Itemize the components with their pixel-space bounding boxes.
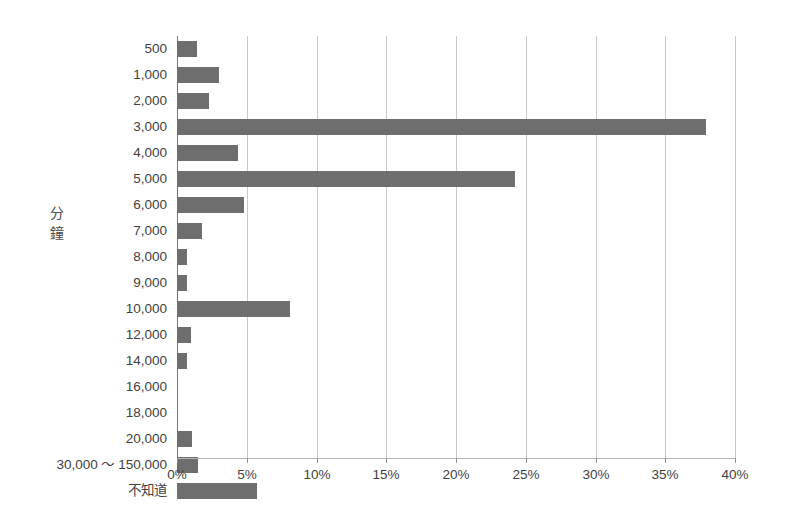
bar-row (177, 400, 735, 426)
category-label: 16,000 (126, 374, 167, 400)
bar-row (177, 374, 735, 400)
gridline (735, 36, 736, 458)
category-label: 10,000 (126, 296, 167, 322)
category-label: 500 (144, 36, 167, 62)
x-axis-tick (456, 458, 457, 463)
bar (177, 67, 219, 83)
category-label: 8,000 (133, 244, 167, 270)
bar-chart: 分 鐘 5001,0002,0003,0004,0005,0006,0007,0… (0, 0, 790, 517)
bar-row (177, 140, 735, 166)
bar-row (177, 192, 735, 218)
x-axis-tick-label: 35% (635, 467, 695, 482)
category-label: 18,000 (126, 400, 167, 426)
category-label: 12,000 (126, 322, 167, 348)
bar (177, 171, 515, 187)
x-axis-tick-label: 5% (217, 467, 277, 482)
x-axis-tick (596, 458, 597, 463)
bar-row (177, 296, 735, 322)
x-axis-tick-label: 25% (496, 467, 556, 482)
bar (177, 327, 191, 343)
bar (177, 223, 202, 239)
bar (177, 93, 209, 109)
x-axis-tick (247, 458, 248, 463)
bar (177, 431, 192, 447)
bar-row (177, 88, 735, 114)
bar-row (177, 218, 735, 244)
bar (177, 197, 244, 213)
plot-area (177, 36, 735, 458)
x-axis-tick-label: 30% (566, 467, 626, 482)
x-axis-tick-label: 15% (356, 467, 416, 482)
x-axis-tick (665, 458, 666, 463)
bar (177, 353, 187, 369)
x-axis: 0%5%10%15%20%25%30%35%40% (177, 458, 735, 498)
bar-row (177, 426, 735, 452)
x-axis-tick-label: 40% (705, 467, 765, 482)
bar (177, 41, 197, 57)
bar (177, 301, 290, 317)
x-axis-tick (735, 458, 736, 463)
category-label: 6,000 (133, 192, 167, 218)
bar-row (177, 36, 735, 62)
y-axis-category-labels: 5001,0002,0003,0004,0005,0006,0007,0008,… (20, 36, 172, 458)
category-label: 20,000 (126, 426, 167, 452)
category-label: 14,000 (126, 348, 167, 374)
bar-row (177, 244, 735, 270)
x-axis-tick (177, 458, 178, 463)
x-axis-tick-label: 10% (287, 467, 347, 482)
category-label: 5,000 (133, 166, 167, 192)
x-axis-tick (526, 458, 527, 463)
bar (177, 119, 706, 135)
category-label: 1,000 (133, 62, 167, 88)
bar-row (177, 348, 735, 374)
x-axis-tick-label: 0% (147, 467, 207, 482)
category-label: 9,000 (133, 270, 167, 296)
bar-row (177, 114, 735, 140)
bar-row (177, 322, 735, 348)
bar (177, 275, 187, 291)
x-axis-tick-label: 20% (426, 467, 486, 482)
bar-row (177, 166, 735, 192)
bar-row (177, 62, 735, 88)
bar (177, 249, 187, 265)
x-axis-tick (317, 458, 318, 463)
bar-row (177, 270, 735, 296)
category-label: 4,000 (133, 140, 167, 166)
bar (177, 145, 238, 161)
category-label: 2,000 (133, 88, 167, 114)
x-axis-tick (386, 458, 387, 463)
category-label: 3,000 (133, 114, 167, 140)
category-label: 7,000 (133, 218, 167, 244)
